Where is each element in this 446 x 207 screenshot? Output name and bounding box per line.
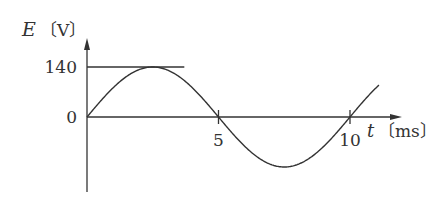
y-tick-label-0: 0 [66,107,77,127]
x-axis-label: t [367,120,375,141]
sine-chart: E 〔V〕 t 〔ms〕 5101400 [0,0,446,207]
y-tick-label-140: 140 [45,57,77,77]
x-tick-label-10: 10 [339,130,361,150]
x-axis-arrow [390,114,402,120]
x-axis-unit: 〔ms〕 [378,121,437,141]
y-axis-label: E [21,18,36,40]
y-axis-unit: 〔V〕 [40,20,86,40]
x-tick-label-5: 5 [213,130,224,150]
